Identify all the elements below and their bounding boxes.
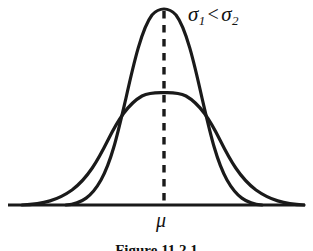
sigma-two-subscript: 2 bbox=[232, 13, 239, 28]
sigma-two-symbol: σ bbox=[221, 2, 232, 26]
normal-distribution-figure: σ1<σ2 μ Figure 11.2.1 bbox=[0, 0, 313, 251]
sigma-comparison-annotation: σ1<σ2 bbox=[188, 4, 239, 27]
sigma-one-symbol: σ bbox=[188, 2, 199, 26]
figure-caption: Figure 11.2.1 bbox=[0, 243, 313, 251]
less-than-symbol: < bbox=[205, 3, 221, 25]
normal-curve-narrow-sigma1 bbox=[66, 9, 262, 205]
mean-mu-label: μ bbox=[156, 210, 166, 230]
